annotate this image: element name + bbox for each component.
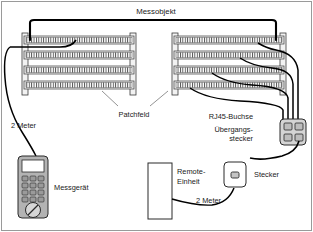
label-remote-einheit-line2: Einheit (177, 177, 200, 186)
diagram-root: Messobjekt (0, 0, 313, 232)
panel-left-row-4 (24, 81, 134, 89)
adapter-port-3[interactable] (284, 134, 292, 141)
label-uebergangsstecker-line2: stecker (229, 134, 253, 143)
adapter-port-1[interactable] (284, 123, 292, 130)
panel-right-row-2 (174, 51, 284, 59)
label-patchfeld: Patchfeld (119, 110, 150, 119)
adapter-port-2[interactable] (295, 123, 303, 130)
label-stecker: Stecker (254, 170, 280, 179)
network-measurement-diagram: Messobjekt (0, 0, 313, 232)
label-messgeraet: Messgerät (54, 183, 89, 192)
device-display (22, 160, 44, 172)
label-meter-left: 2 Meter (11, 121, 37, 130)
adapter-block[interactable] (280, 119, 306, 145)
page-title: Messobjekt (136, 7, 176, 16)
label-remote-einheit-line1: Remote- (177, 167, 206, 176)
label-uebergangsstecker-line1: Übergangs- (214, 125, 253, 134)
device-dial[interactable] (26, 203, 41, 218)
remote-unit[interactable] (148, 163, 172, 219)
panel-left-row-2 (24, 51, 134, 59)
measuring-device[interactable] (18, 156, 48, 218)
adapter-port-4[interactable] (295, 134, 303, 141)
panel-left-row-1 (24, 36, 134, 44)
label-meter-right: 2 Meter (196, 196, 222, 205)
stecker-port[interactable] (231, 172, 239, 178)
panel-left-row-3 (24, 66, 134, 74)
stecker[interactable] (224, 162, 246, 187)
label-rj45-buchse: RJ45-Buchse (209, 112, 253, 121)
panel-right-row-1 (174, 36, 284, 44)
